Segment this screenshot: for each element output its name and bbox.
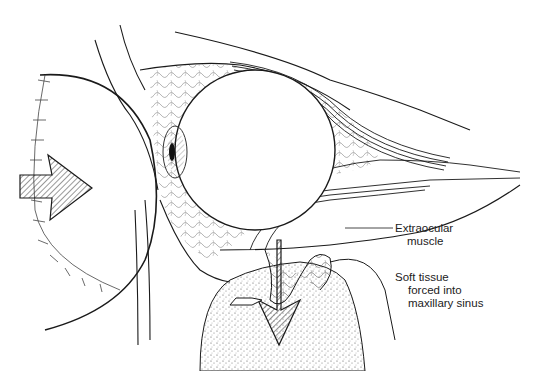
orbit-illustration (0, 0, 538, 371)
label-extraocular-line1: Extraocular (395, 222, 453, 235)
pupil (169, 143, 175, 161)
label-soft-tissue-line1: Soft tissue (395, 271, 449, 284)
eyeball (175, 70, 335, 230)
label-soft-tissue-line2: forced into (408, 284, 462, 297)
label-soft-tissue-line3: maxillary sinus (408, 297, 483, 310)
label-extraocular-line2: muscle (407, 235, 443, 248)
